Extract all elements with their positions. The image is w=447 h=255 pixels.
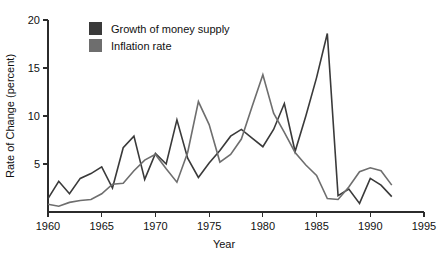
legend-label: Inflation rate [111,40,172,52]
y-tick-label: 5 [34,158,40,170]
x-tick-label: 1975 [197,220,221,232]
x-tick-label: 1965 [89,220,113,232]
series-lines [48,33,392,206]
series-line [48,75,392,207]
legend-label: Growth of money supply [111,23,230,35]
legend-swatch [89,39,102,52]
legend-swatch [89,22,102,35]
x-tick-label: 1980 [251,220,275,232]
x-tick-label: 1990 [358,220,382,232]
x-tick-label: 1970 [143,220,167,232]
x-tick-label: 1960 [36,220,60,232]
series-line [48,33,392,203]
y-tick-label: 20 [28,14,40,26]
y-tick-label: 15 [28,62,40,74]
x-axis-title: Year [213,238,236,250]
y-tick-label: 10 [28,110,40,122]
chart-legend: Growth of money supplyInflation rate [89,22,230,52]
x-axis: 19601965197019751980198519901995 [36,212,436,232]
y-axis-title: Rate of Change (percent) [4,54,16,178]
chart-figure: 5101520 19601965197019751980198519901995… [0,0,447,255]
x-tick-label: 1985 [304,220,328,232]
x-tick-label: 1995 [412,220,436,232]
y-axis: 5101520 [28,14,48,212]
line-chart-svg: 5101520 19601965197019751980198519901995… [0,0,447,255]
